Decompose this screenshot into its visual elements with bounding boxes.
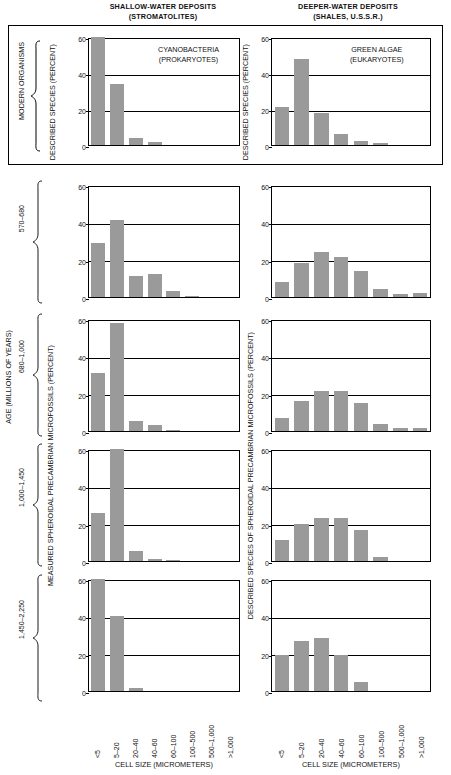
bar: [413, 293, 428, 297]
panel-title-line2: (EUKARYOTES): [326, 55, 428, 65]
bar: [275, 282, 290, 297]
bar-slot: [145, 187, 164, 297]
bar-slot: [292, 187, 312, 297]
bar-slot: [312, 581, 332, 691]
bar-slot: [272, 321, 292, 431]
plot-area-row1-left: 0204060: [88, 186, 240, 298]
bar-slot: [371, 187, 391, 297]
x-axis-tick-label: <5: [271, 700, 291, 758]
bar: [373, 143, 388, 145]
bar-slot: [220, 581, 239, 691]
bar-slot: [202, 187, 221, 297]
bar-slot: [202, 581, 221, 691]
bar: [294, 524, 309, 561]
bar: [334, 655, 349, 691]
plot-area-row3-left: 0204060: [88, 450, 240, 562]
y-axis-tick-label: 60: [78, 578, 89, 585]
bar-slot: [292, 39, 312, 145]
bar-slot: [202, 321, 221, 431]
bar-slot: [202, 451, 221, 561]
bar-slot: [220, 321, 239, 431]
bar-slot: [351, 581, 371, 691]
y-axis-tick-label: 0: [265, 296, 272, 303]
chart-panel-row2-left: 0204060: [88, 320, 240, 432]
y-axis-tick-label: 60: [261, 448, 272, 455]
bar-slot: [108, 451, 127, 561]
x-axis-tick-label: 5–20: [107, 700, 126, 758]
bar-slot: [89, 187, 108, 297]
panel-title-line2: (PROKARYOTES): [140, 55, 237, 65]
y-axis-tick-label: 40: [78, 72, 89, 79]
x-axis-tick-label: 5–20: [291, 700, 311, 758]
bar-slot: [145, 451, 164, 561]
x-axis-tick-label: >1,000: [411, 700, 431, 758]
x-axis-tick-label: 40–60: [145, 700, 164, 758]
bar: [110, 220, 124, 297]
bar-slot: [108, 187, 127, 297]
bar: [294, 401, 309, 431]
y-axis-tick-label: 20: [261, 108, 272, 115]
y-axis-tick-label: 40: [261, 72, 272, 79]
y-axis-tick-label: 0: [82, 296, 89, 303]
bar: [314, 518, 329, 561]
bar-series: [272, 187, 430, 297]
chart-panel-row3-left: 0204060: [88, 450, 240, 562]
row-brace-1450-2250: [32, 574, 43, 702]
bar-slot: [127, 321, 146, 431]
bar-slot: [220, 187, 239, 297]
bar-series: [272, 581, 430, 691]
bar-slot: [272, 39, 292, 145]
bar-slot: [410, 187, 430, 297]
bar: [373, 557, 388, 561]
bar-slot: [164, 581, 183, 691]
column-header-deeper-water-line1: DEEPER-WATER DEPOSITS: [258, 2, 438, 12]
bar-slot: [292, 581, 312, 691]
bar: [373, 289, 388, 297]
chart-panel-modern-left: 0204060CYANOBACTERIA(PROKARYOTES): [88, 38, 240, 146]
bar-series: [89, 451, 239, 561]
bar-slot: [292, 451, 312, 561]
bar: [314, 391, 329, 431]
bar: [294, 641, 309, 691]
panel-title-modern-left: CYANOBACTERIA(PROKARYOTES): [140, 45, 237, 66]
y-axis-tick-label: 0: [265, 560, 272, 567]
fossil-right-y-axis-label: DESCRIBED SPECIES OF SPHEROIDAL PRECAMBR…: [244, 332, 256, 632]
y-axis-tick-label: 0: [265, 690, 272, 697]
row-brace-570-680: [32, 180, 43, 304]
bar: [334, 391, 349, 431]
bar: [314, 252, 329, 297]
chart-panel-row3-right: 0204060: [271, 450, 431, 562]
y-axis-tick-label: 0: [82, 690, 89, 697]
column-header-shallow-water-line2: (STROMATOLITES): [78, 12, 248, 22]
bar-slot: [164, 187, 183, 297]
bar-slot: [331, 451, 351, 561]
bar: [91, 373, 105, 431]
bar-slot: [108, 581, 127, 691]
panel-title-modern-right: GREEN ALGAE(EUKARYOTES): [326, 45, 428, 66]
y-axis-tick-label: 40: [261, 485, 272, 492]
x-axis-title-right: CELL SIZE (MICROMETERS): [261, 760, 441, 769]
x-axis-tick-label: 500–1,000: [202, 700, 221, 758]
y-axis-tick-label: 20: [78, 522, 89, 529]
bar: [185, 296, 199, 297]
y-axis-tick-label: 0: [82, 560, 89, 567]
y-axis-tick-label: 20: [261, 522, 272, 529]
bar: [354, 682, 369, 691]
bar-series: [272, 451, 430, 561]
bar: [275, 418, 290, 431]
bar-slot: [220, 451, 239, 561]
bar-slot: [183, 187, 202, 297]
plot-area-row3-right: 0204060: [271, 450, 431, 562]
bar: [334, 257, 349, 297]
bar-slot: [410, 321, 430, 431]
bar-slot: [312, 451, 332, 561]
plot-area-modern-right: 0204060GREEN ALGAE(EUKARYOTES): [271, 38, 431, 146]
y-axis-tick-label: 40: [78, 485, 89, 492]
bar: [110, 616, 124, 691]
panel-title-line1: GREEN ALGAE: [326, 45, 428, 55]
y-axis-tick-label: 60: [78, 36, 89, 43]
bar-slot: [164, 321, 183, 431]
row-brace-1000-1450: [32, 443, 43, 567]
bar: [148, 425, 162, 431]
bar: [129, 688, 143, 691]
